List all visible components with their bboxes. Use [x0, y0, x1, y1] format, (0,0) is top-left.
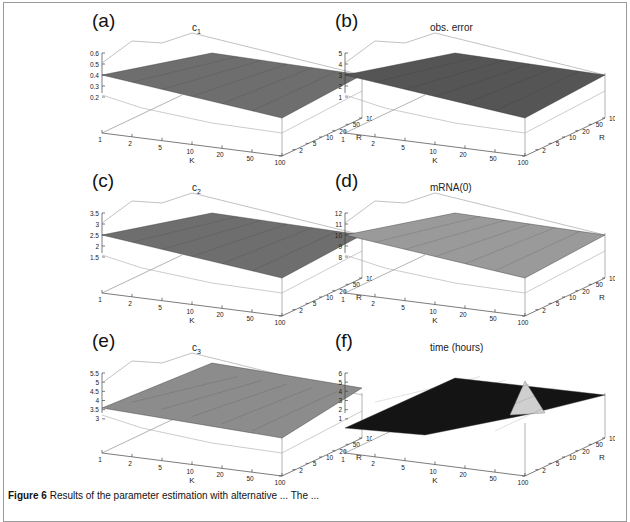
z-tick-label: 5.5 [90, 370, 99, 377]
r-tick-label: 2 [542, 307, 546, 314]
k-tick-label: 1 [341, 136, 345, 143]
z-tick-label: 3 [338, 72, 342, 79]
r-tick-label: 50 [596, 281, 604, 288]
r-tick-label: 2 [299, 307, 303, 314]
r-tick-label: 2 [542, 147, 546, 154]
k-tick-label: 50 [246, 155, 254, 162]
z-tick-label: 4 [338, 61, 342, 68]
k-tick-label: 100 [518, 479, 529, 486]
r-tick-label: 5 [556, 140, 560, 147]
k-tick-label: 5 [401, 304, 405, 311]
k-tick-label: 20 [216, 471, 224, 478]
z-tick-label: 2 [338, 406, 342, 413]
z-tick-label: 3.5 [90, 406, 99, 413]
panel-f: (f)time (hours)12510205010025102050100KR… [335, 328, 630, 488]
k-tick-label: 2 [128, 300, 132, 307]
k-axis-label: K [432, 316, 438, 325]
r-axis-label: R [599, 133, 605, 142]
k-tick-label: 5 [158, 464, 162, 471]
caption-text: Results of the parameter estimation with… [50, 490, 319, 501]
z-tick-label: 8 [338, 254, 342, 261]
z-tick-label: 6 [338, 370, 342, 377]
k-tick-label: 1 [98, 296, 102, 303]
k-tick-label: 1 [98, 136, 102, 143]
r-tick-label: 10 [569, 454, 577, 461]
z-tick-label: 0.5 [90, 61, 99, 68]
figure-caption: Figure 6 Results of the parameter estima… [8, 490, 319, 501]
k-tick-label: 5 [158, 304, 162, 311]
k-tick-label: 5 [158, 144, 162, 151]
z-tick-label: 3.5 [90, 210, 99, 217]
k-tick-label: 10 [429, 308, 437, 315]
r-tick-label: 50 [596, 441, 604, 448]
r-tick-label: 5 [556, 460, 560, 467]
z-tick-label: 11 [335, 221, 342, 228]
k-tick-label: 2 [371, 140, 375, 147]
k-tick-label: 50 [246, 475, 254, 482]
r-axis-label: R [599, 293, 605, 302]
r-tick-label: 100 [609, 115, 615, 122]
k-tick-label: 50 [489, 155, 497, 162]
mean-surface [345, 378, 605, 435]
r-tick-label: 50 [596, 121, 604, 128]
z-tick-label: 4 [95, 397, 99, 404]
k-tick-label: 20 [216, 151, 224, 158]
z-tick-label: 2 [95, 243, 99, 250]
z-tick-label: 0.4 [90, 72, 99, 79]
k-tick-label: 10 [186, 468, 194, 475]
r-tick-label: 20 [582, 128, 590, 135]
z-tick-label: 1 [338, 94, 342, 101]
r-tick-label: 5 [556, 300, 560, 307]
r-tick-label: 2 [299, 147, 303, 154]
k-tick-label: 100 [518, 159, 529, 166]
panel-b: (b)obs. error12510205010025102050100KR54… [335, 8, 630, 168]
r-tick-label: 2 [299, 467, 303, 474]
k-tick-label: 50 [489, 315, 497, 322]
z-tick-label: 0.6 [90, 50, 99, 57]
z-tick-label: 4.5 [90, 388, 99, 395]
r-tick-label: 100 [609, 275, 615, 282]
z-tick-label: 1.5 [90, 254, 99, 261]
z-tick-label: 0.3 [90, 83, 99, 90]
k-tick-label: 5 [401, 144, 405, 151]
r-tick-label: 2 [542, 467, 546, 474]
z-tick-label: 12 [335, 210, 343, 217]
z-tick-label: 10 [335, 232, 343, 239]
k-tick-label: 100 [275, 159, 286, 166]
z-tick-label: 3 [95, 221, 99, 228]
k-axis-label: K [432, 476, 438, 485]
z-tick-label: 5 [95, 379, 99, 386]
k-tick-label: 1 [341, 296, 345, 303]
z-tick-label: 3 [95, 415, 99, 422]
r-tick-label: 20 [582, 448, 590, 455]
surface-plot: 12510205010025102050100KR654321 [315, 338, 615, 488]
caption-label: Figure 6 [8, 490, 47, 501]
k-tick-label: 2 [371, 460, 375, 467]
k-tick-label: 50 [246, 315, 254, 322]
r-tick-label: 100 [609, 435, 615, 442]
z-tick-label: 2.5 [90, 232, 99, 239]
r-tick-label: 20 [582, 288, 590, 295]
k-tick-label: 100 [275, 319, 286, 326]
z-tick-label: 5 [338, 379, 342, 386]
k-axis-label: K [432, 156, 438, 165]
k-axis-label: K [189, 156, 195, 165]
k-tick-label: 2 [371, 300, 375, 307]
k-tick-label: 5 [401, 464, 405, 471]
k-tick-label: 50 [489, 475, 497, 482]
z-tick-label: 9 [338, 243, 342, 250]
r-tick-label: 10 [569, 134, 577, 141]
k-tick-label: 10 [429, 468, 437, 475]
z-tick-label: 1 [338, 415, 342, 422]
k-tick-label: 20 [459, 471, 467, 478]
z-tick-label: 0.2 [90, 94, 99, 101]
k-tick-label: 10 [429, 148, 437, 155]
k-tick-label: 10 [186, 148, 194, 155]
k-tick-label: 100 [518, 319, 529, 326]
z-tick-label: 4 [338, 388, 342, 395]
k-tick-label: 1 [341, 456, 345, 463]
k-tick-label: 20 [459, 311, 467, 318]
z-tick-label: 3 [338, 397, 342, 404]
k-tick-label: 1 [98, 456, 102, 463]
k-tick-label: 2 [128, 460, 132, 467]
